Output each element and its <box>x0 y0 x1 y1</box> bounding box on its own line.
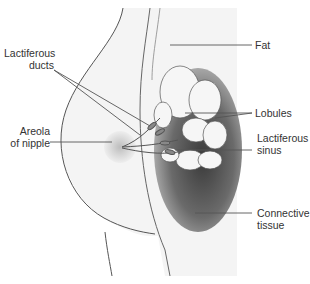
label-line: Lactiferous <box>4 47 54 59</box>
label-line: Areola <box>4 125 50 137</box>
label-line: tissue <box>257 219 310 231</box>
label-lactiferous-ducts: Lactiferous ducts <box>4 47 54 71</box>
label-areola: Areola of nipple <box>4 125 50 149</box>
label-line: sinus <box>257 144 308 156</box>
label-line: Lactiferous <box>257 132 308 144</box>
label-connective-tissue: Connective tissue <box>257 207 310 231</box>
label-lactiferous-sinus: Lactiferous sinus <box>257 132 308 156</box>
label-fat: Fat <box>255 39 270 51</box>
label-line: Fat <box>255 39 270 51</box>
label-line: Lobules <box>255 107 292 119</box>
label-line: of nipple <box>4 137 50 149</box>
label-line: Connective <box>257 207 310 219</box>
areola <box>104 131 136 163</box>
label-lobules: Lobules <box>255 107 292 119</box>
label-line: ducts <box>4 59 54 71</box>
